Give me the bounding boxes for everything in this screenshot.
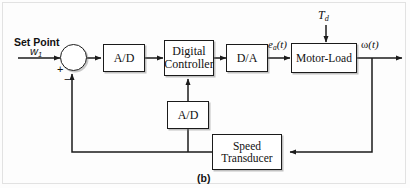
figure-caption: (b) <box>197 172 210 184</box>
label-set-point-symbol: w1 <box>30 45 42 59</box>
label-control-voltage: ea(t) <box>268 38 287 52</box>
control-voltage-argument: (t) <box>277 38 287 50</box>
block-digital-controller-line2: Controller <box>164 58 213 71</box>
block-da-label: D/A <box>237 52 258 65</box>
control-system-block-diagram: + − A/D Digital Controller D/A Motor-Loa… <box>0 0 410 188</box>
output-argument: (t) <box>368 38 378 50</box>
block-ad-feedback-label: A/D <box>178 109 199 122</box>
block-digital-controller-text: Digital Controller <box>164 45 213 70</box>
disturbance-symbol-base: T <box>318 8 325 22</box>
set-point-symbol-base: w <box>30 45 38 57</box>
block-motor-load-label: Motor-Load <box>296 52 352 64</box>
block-ad-forward-label: A/D <box>114 52 135 65</box>
label-disturbance: Td <box>318 8 329 23</box>
disturbance-symbol-subscript: d <box>325 14 329 23</box>
block-speed-transducer-line1: Speed <box>221 140 272 152</box>
label-output: ω(t) <box>361 38 379 50</box>
summing-junction-plus-sign: + <box>57 64 63 75</box>
block-da: D/A <box>226 44 268 72</box>
block-speed-transducer-text: Speed Transducer <box>221 140 272 164</box>
wiring-layer <box>0 0 410 188</box>
summing-junction <box>60 44 87 71</box>
block-speed-transducer-line2: Transducer <box>221 152 272 164</box>
summing-junction-minus-sign: − <box>64 74 70 85</box>
block-ad-feedback: A/D <box>167 101 209 129</box>
block-motor-load: Motor-Load <box>291 43 357 73</box>
set-point-symbol-subscript: 1 <box>38 50 42 59</box>
block-digital-controller: Digital Controller <box>164 40 214 76</box>
block-ad-forward: A/D <box>103 44 145 72</box>
block-speed-transducer: Speed Transducer <box>212 134 282 170</box>
